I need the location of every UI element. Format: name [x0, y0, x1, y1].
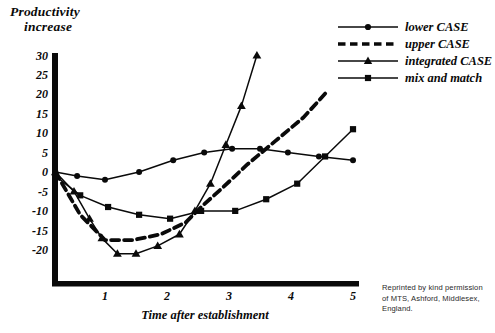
data-point-marker [136, 169, 142, 175]
data-point-marker [237, 101, 246, 109]
x-tick-label: 4 [287, 289, 294, 303]
data-point-marker [316, 153, 322, 159]
data-point-marker [170, 157, 176, 163]
data-point-marker [206, 179, 215, 187]
data-point-marker [85, 214, 94, 222]
data-point-marker [350, 126, 356, 132]
y-tick-label: -20 [32, 243, 48, 257]
data-point-marker [350, 157, 356, 163]
x-tick-labels: 12345 [102, 289, 356, 303]
y-tick-label: -15 [32, 224, 48, 238]
y-axis-line [52, 53, 58, 285]
legend-item-upper-case: upper CASE [337, 35, 495, 52]
series-upper-case [55, 90, 328, 240]
data-point-marker [74, 173, 80, 179]
data-point-marker [322, 153, 328, 159]
data-point-marker [102, 177, 108, 183]
data-point-marker [222, 140, 231, 148]
data-point-marker [232, 208, 238, 214]
y-tick-label: 10 [36, 126, 48, 140]
y-tick-label: 20 [35, 87, 48, 101]
legend-swatch-circle [337, 19, 399, 35]
series-line [55, 55, 257, 253]
series-mix-and-match [52, 126, 356, 222]
data-point-marker [263, 196, 269, 202]
series-integrated-case [51, 51, 261, 257]
x-tick-label: 1 [102, 289, 108, 303]
chart-legend: lower CASE upper CASE integrated CASE [337, 18, 495, 86]
y-tick-label: 0 [42, 165, 48, 179]
data-point-marker [198, 208, 204, 214]
data-point-marker [153, 242, 162, 250]
y-tick-label: 30 [35, 49, 48, 63]
data-point-marker [175, 230, 184, 238]
legend-swatch-square [337, 70, 399, 86]
legend-label-integrated-case: integrated CASE [399, 54, 492, 68]
y-tick-label: -5 [38, 185, 48, 199]
credit-line-1: Reprinted by kind permission [382, 283, 494, 294]
y-tick-label: 25 [35, 68, 48, 82]
data-point-marker [77, 192, 83, 198]
data-point-marker [294, 181, 300, 187]
legend-swatch-dashed [337, 36, 399, 52]
data-point-marker [105, 204, 111, 210]
x-tick-label: 3 [225, 289, 232, 303]
legend-item-lower-case: lower CASE [337, 18, 495, 35]
y-tick-label: -10 [32, 204, 48, 218]
data-point-marker [167, 216, 173, 222]
data-point-marker [201, 150, 207, 156]
y-tick-label: 15 [36, 107, 48, 121]
x-tick-label: 2 [163, 289, 170, 303]
x-axis-line [52, 281, 359, 287]
credit-line-2: of MTS, Ashford, Middlesex, [382, 294, 494, 305]
legend-label-upper-case: upper CASE [399, 37, 470, 51]
legend-swatch-triangle [337, 53, 399, 69]
legend-label-lower-case: lower CASE [399, 20, 469, 34]
data-point-marker [253, 51, 262, 59]
series-lower-case [52, 146, 356, 183]
x-tick-label: 5 [350, 289, 356, 303]
credit-note: Reprinted by kind permission of MTS, Ash… [382, 283, 494, 315]
y-tick-label: 5 [42, 146, 48, 160]
plot-series [51, 51, 356, 257]
data-point-marker [285, 150, 291, 156]
y-tick-labels: 302520151050-5-10-15-20 [32, 49, 48, 258]
data-point-marker [229, 146, 235, 152]
series-line [55, 90, 328, 240]
credit-line-3: England. [382, 304, 494, 315]
chart-figure: Productivity increase 302520151050-5-10-… [0, 0, 495, 333]
data-point-marker [136, 212, 142, 218]
legend-item-integrated-case: integrated CASE [337, 52, 495, 69]
legend-label-mix-and-match: mix and match [399, 71, 482, 85]
x-axis-title: Time after establishment [141, 308, 269, 322]
legend-item-mix-and-match: mix and match [337, 69, 495, 86]
